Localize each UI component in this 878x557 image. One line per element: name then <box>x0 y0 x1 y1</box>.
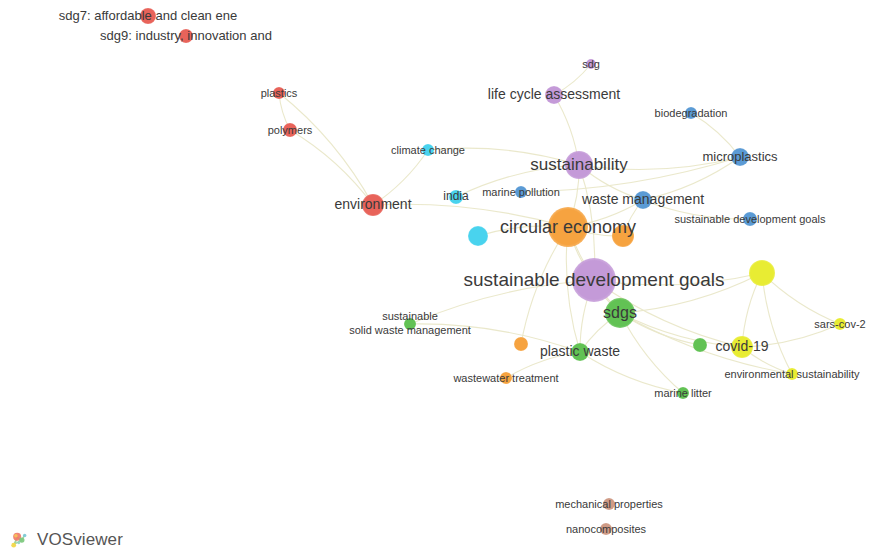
node-label-sdgoals_p: sustainable development goals <box>464 269 725 290</box>
vosviewer-brand-label: VOSviewer <box>37 530 123 550</box>
node-label-climate: climate change <box>391 144 465 156</box>
network-node[interactable] <box>693 338 707 352</box>
node-label-marinepoll: marine pollution <box>482 186 560 198</box>
vosviewer-brand[interactable]: VOSviewer <box>8 529 123 551</box>
network-node[interactable] <box>514 337 528 351</box>
node-label-circecon: circular economy <box>500 217 636 237</box>
node-label-covid19: covid-19 <box>716 339 769 355</box>
node-label-susolid: sustainablesolid waste management <box>349 310 471 338</box>
node-label-sdg: sdg <box>582 58 600 70</box>
node-label-environment: environment <box>334 197 411 213</box>
vosviewer-canvas[interactable]: sdg7: affordable and clean enesdg9: indu… <box>0 0 878 557</box>
node-label-plastics: plastics <box>261 87 298 99</box>
network-node[interactable] <box>468 226 488 246</box>
node-label-wastemgmt: waste management <box>582 192 704 208</box>
vosviewer-network-logo-icon <box>8 529 30 551</box>
node-label-marinelitter: marine litter <box>654 387 711 399</box>
node-label-sdgoals_b: sustainable development goals <box>674 213 825 225</box>
node-label-sdg7: sdg7: affordable and clean ene <box>59 9 237 24</box>
node-label-mechprops: mechanical properties <box>555 498 663 510</box>
node-label-nanocomp: nanocomposites <box>566 523 646 535</box>
node-label-polymers: polymers <box>268 124 313 136</box>
node-label-sustain: sustainability <box>530 155 627 174</box>
node-label-biodeg: biodegradation <box>655 107 728 119</box>
node-label-microplast: microplastics <box>702 150 777 165</box>
node-label-lca: life cycle assessment <box>488 87 620 103</box>
node-label-envsustain: environmental sustainability <box>724 368 859 380</box>
node-label-sarscov2: sars-cov-2 <box>814 318 865 330</box>
node-label-sdgs: sdgs <box>603 304 637 322</box>
network-node[interactable] <box>749 260 775 286</box>
node-label-india: india <box>443 190 468 203</box>
node-label-plasticwaste: plastic waste <box>540 344 620 360</box>
network-node-layer <box>0 0 878 557</box>
node-label-sdg9: sdg9: industry, innovation and <box>100 29 272 44</box>
node-label-wastewater: wastewater treatment <box>453 372 558 384</box>
